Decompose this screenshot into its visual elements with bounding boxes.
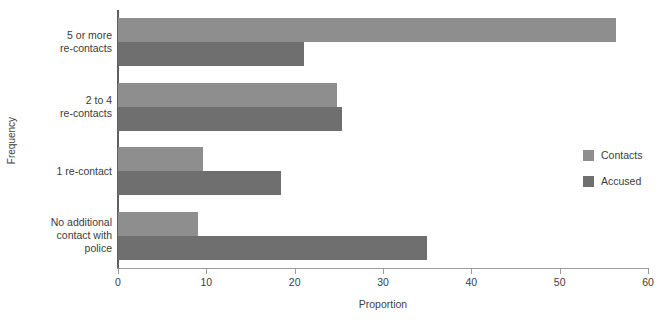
category-label-3: 5 or morere-contacts bbox=[18, 29, 112, 55]
bar-accused-0 bbox=[118, 236, 427, 260]
x-tick-label-60: 60 bbox=[628, 276, 666, 288]
category-label-2: 2 to 4re-contacts bbox=[18, 94, 112, 120]
legend-label: Contacts bbox=[601, 149, 642, 161]
category-label-0: No additionalcontact withpolice bbox=[18, 216, 112, 255]
bar-chart: Frequency No additionalcontact withpolic… bbox=[0, 0, 666, 326]
bar-contacts-0 bbox=[118, 212, 198, 236]
category-label-line: 1 re-contact bbox=[18, 165, 112, 178]
x-tick-mark-0 bbox=[118, 268, 119, 274]
x-tick-mark-50 bbox=[560, 268, 561, 274]
x-tick-mark-60 bbox=[648, 268, 649, 274]
plot-area: 0102030405060 bbox=[118, 10, 648, 268]
x-tick-label-0: 0 bbox=[98, 276, 138, 288]
category-label-line: No additional bbox=[18, 216, 112, 229]
bar-accused-3 bbox=[118, 42, 304, 66]
x-tick-label-20: 20 bbox=[275, 276, 315, 288]
x-tick-mark-20 bbox=[295, 268, 296, 274]
category-label-line: contact with bbox=[18, 229, 112, 242]
legend-item-contacts[interactable]: Contacts bbox=[583, 142, 663, 168]
y-axis-title-text: Frequency bbox=[7, 116, 18, 163]
chart-legend: ContactsAccused bbox=[583, 142, 663, 194]
bar-contacts-2 bbox=[118, 83, 337, 107]
category-label-line: re-contacts bbox=[18, 107, 112, 120]
category-label-1: 1 re-contact bbox=[18, 165, 112, 178]
bar-accused-1 bbox=[118, 171, 281, 195]
x-tick-label-10: 10 bbox=[186, 276, 226, 288]
x-tick-label-50: 50 bbox=[540, 276, 580, 288]
category-axis-labels: No additionalcontact withpolice1 re-cont… bbox=[20, 10, 116, 268]
x-tick-label-30: 30 bbox=[363, 276, 403, 288]
category-label-line: police bbox=[18, 242, 112, 255]
legend-swatch-icon bbox=[583, 150, 594, 161]
category-label-line: 5 or more bbox=[18, 29, 112, 42]
category-label-line: 2 to 4 bbox=[18, 94, 112, 107]
x-tick-mark-30 bbox=[383, 268, 384, 274]
category-label-line: re-contacts bbox=[18, 42, 112, 55]
bar-accused-2 bbox=[118, 107, 342, 131]
bar-contacts-3 bbox=[118, 18, 616, 42]
legend-item-accused[interactable]: Accused bbox=[583, 168, 663, 194]
x-tick-mark-40 bbox=[471, 268, 472, 274]
bar-contacts-1 bbox=[118, 147, 203, 171]
x-tick-label-40: 40 bbox=[451, 276, 491, 288]
legend-swatch-icon bbox=[583, 176, 594, 187]
x-tick-mark-10 bbox=[206, 268, 207, 274]
legend-label: Accused bbox=[601, 175, 641, 187]
x-axis-title: Proportion bbox=[118, 298, 648, 310]
